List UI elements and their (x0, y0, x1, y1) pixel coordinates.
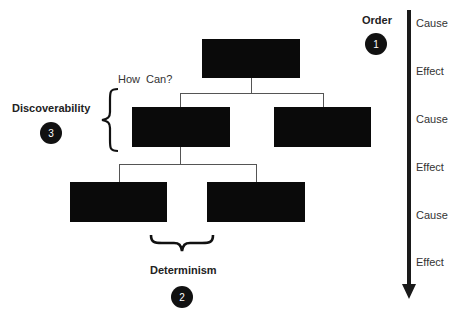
determinism-badge: 2 (171, 286, 193, 308)
order-label: Order (362, 15, 392, 26)
connector-level1-bar (180, 93, 324, 94)
timeline-step: Cause (416, 210, 448, 221)
connector-child-left-stem (180, 147, 181, 164)
order-badge: 1 (365, 33, 387, 55)
connector-to-child-right (323, 93, 324, 107)
arrow-down-icon (402, 284, 416, 299)
connector-to-grandchild-right (256, 164, 257, 182)
how-can-label: How Can? (118, 74, 172, 85)
connector-to-grandchild-left (119, 164, 120, 182)
bottom-brace-icon (150, 234, 214, 252)
node-child-right (274, 107, 371, 147)
node-root (202, 39, 300, 78)
discoverability-badge: 3 (40, 122, 62, 144)
connector-root-stem (251, 78, 252, 93)
discoverability-label: Discoverability (12, 103, 90, 114)
connector-level2-bar (119, 164, 257, 165)
timeline-step: Effect (416, 162, 444, 173)
connector-to-child-left (180, 93, 181, 107)
node-grandchild-right (207, 182, 305, 222)
timeline-arrow-shaft (407, 10, 411, 286)
timeline-step: Effect (416, 66, 444, 77)
timeline-step: Effect (416, 257, 444, 268)
node-grandchild-left (70, 182, 167, 222)
timeline-step: Cause (416, 114, 448, 125)
left-brace-icon (100, 88, 120, 152)
timeline-step: Cause (416, 18, 448, 29)
determinism-label: Determinism (150, 265, 217, 276)
node-child-left (132, 107, 230, 147)
